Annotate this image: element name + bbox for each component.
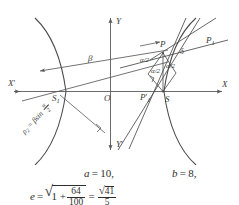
x-negative-axis-label: X' <box>8 79 15 88</box>
formula-e-inner-one: 1 + <box>52 190 66 202</box>
beta-label: β <box>88 54 92 63</box>
fraction-sqrt41-5: 415 <box>98 186 116 205</box>
formula-eccentricity: e = 1 +64100 = 415 <box>30 185 117 205</box>
radical-large: 1 +64100 <box>46 185 87 205</box>
point-p-label: P <box>160 40 166 49</box>
perpendicular-foot-line <box>60 95 105 133</box>
focus-s1-label: S1 <box>52 94 60 104</box>
angle-alpha-half-right: α/2 <box>166 63 175 70</box>
angle-alpha-half-inner: α/2 <box>151 68 160 75</box>
y-negative-axis-label: Y' <box>116 140 123 149</box>
formula-b-value: 8, <box>188 167 196 179</box>
formula-b: b = 8, <box>172 168 196 179</box>
hyperbola-diagram: X' X Y Y' O S S1 P P1 P'1 α/2 α/2 α/2 δ … <box>0 0 239 165</box>
formula-a-value: 10, <box>100 167 114 179</box>
formula-a: a = 10, <box>84 168 114 179</box>
x-positive-axis-label: X <box>222 80 228 89</box>
fraction-denominator: 100 <box>67 197 85 205</box>
formula-block: a = 10, b = 8, e = 1 +64100 = 415 <box>0 163 239 205</box>
chord-through-focus-steep <box>118 18 200 150</box>
point-p1-label: P1 <box>206 36 215 46</box>
angle-alpha-half-upper-left: α/2 <box>140 57 149 64</box>
fraction-64-100: 64100 <box>67 187 85 205</box>
fraction-numerator-radical: 41 <box>98 186 116 197</box>
point-p1-prime-label: P'1 <box>140 93 150 103</box>
chord-through-p-steep <box>129 18 186 149</box>
angle-delta: δ <box>180 48 184 56</box>
focus-s-label: S <box>165 95 170 104</box>
y-positive-axis-label: Y <box>116 17 121 26</box>
fraction-denominator-5: 5 <box>98 197 116 205</box>
fraction-numerator: 64 <box>67 187 85 197</box>
origin-label: O <box>104 94 111 103</box>
figure-page: X' X Y Y' O S S1 P P1 P'1 α/2 α/2 α/2 δ … <box>0 0 239 205</box>
p-vector-arrow <box>140 42 160 46</box>
